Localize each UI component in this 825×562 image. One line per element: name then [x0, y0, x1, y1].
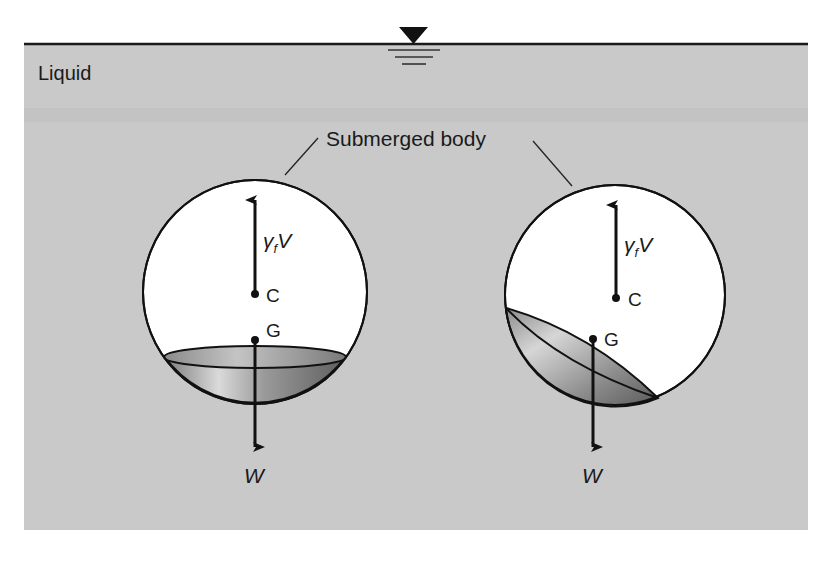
center-of-gravity-dot	[589, 335, 597, 343]
center-of-buoyancy-dot	[612, 294, 620, 302]
center-of-gravity-dot	[251, 336, 259, 344]
buoyancy-stability-diagram: Liquid Submerged body γfV C G W	[0, 0, 825, 562]
center-of-gravity-label: G	[604, 329, 619, 350]
buoyant-force-label: γfV	[263, 229, 293, 256]
submerged-body-label: Submerged body	[326, 127, 486, 150]
liquid-label: Liquid	[38, 62, 91, 84]
liquid-band-highlight	[24, 108, 808, 122]
center-of-buoyancy-dot	[251, 290, 259, 298]
center-of-buoyancy-label: C	[266, 285, 280, 306]
center-of-gravity-label: G	[266, 320, 281, 341]
weight-label: W	[244, 464, 266, 487]
buoyant-force-label: γfV	[624, 233, 654, 260]
weight-label: W	[582, 464, 604, 487]
center-of-buoyancy-label: C	[628, 289, 642, 310]
